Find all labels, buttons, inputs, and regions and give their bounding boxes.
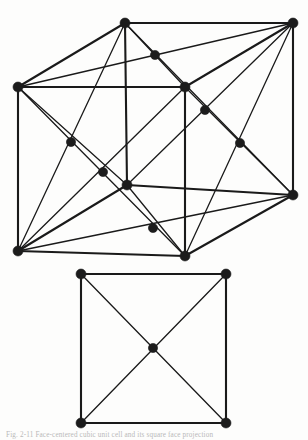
- atom-node-sq-bottom-right: [221, 418, 231, 428]
- atom-node-front-top-left: [13, 82, 23, 92]
- atom-node-front-bottom-right: [180, 251, 190, 261]
- atom-node-front-face-center: [98, 167, 107, 176]
- atom-node-bottom-face-center: [148, 223, 157, 232]
- atom-node-front-top-right: [180, 82, 190, 92]
- atom-node-sq-top-left: [76, 269, 86, 279]
- atom-node-right-face-center: [235, 138, 244, 147]
- atom-node-front-bottom-left: [13, 246, 23, 256]
- atom-node-back-face-center: [200, 105, 209, 114]
- figure-caption: Fig. 2-11 Face-centered cubic unit cell …: [6, 431, 302, 439]
- atom-node-back-bottom-right: [288, 190, 298, 200]
- figure-background: [0, 0, 308, 440]
- atom-node-left-face-center: [66, 137, 75, 146]
- atom-node-sq-center: [148, 343, 157, 352]
- atom-node-sq-bottom-left: [76, 418, 86, 428]
- atom-node-back-top-left: [120, 18, 130, 28]
- figure-canvas: [0, 0, 308, 440]
- atom-node-back-bottom-left: [122, 180, 132, 190]
- atom-node-top-face-center: [150, 50, 159, 59]
- atom-node-back-top-right: [288, 18, 298, 28]
- atom-node-sq-top-right: [221, 269, 231, 279]
